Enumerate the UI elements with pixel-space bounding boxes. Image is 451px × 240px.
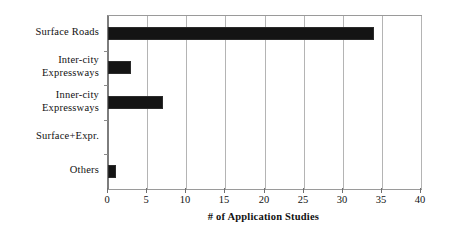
bar: [108, 61, 131, 74]
y-axis-label-line: Others: [0, 164, 99, 177]
x-axis-tick-label: 30: [322, 193, 362, 206]
x-axis-tick-label: 35: [361, 193, 401, 206]
bar: [108, 27, 374, 40]
y-axis-tick: [104, 154, 108, 155]
bar: [108, 165, 116, 178]
y-axis-label: Inter-cityExpressways: [0, 54, 99, 79]
x-axis-title: # of Application Studies: [107, 210, 420, 224]
y-axis-label-line: Inner-city: [0, 89, 99, 102]
plot-area: [107, 15, 422, 190]
y-axis-label-line: Surface Roads: [0, 26, 99, 39]
y-axis-label-line: Expressways: [0, 102, 99, 115]
x-axis-tick-label: 5: [126, 193, 166, 206]
x-axis-tick-label: 15: [204, 193, 244, 206]
x-axis-tick-labels: 0510152025303540: [107, 193, 420, 207]
x-axis-tick-label: 0: [87, 193, 127, 206]
bar-chart: Surface RoadsInter-cityExpresswaysInner-…: [0, 0, 451, 240]
y-axis-tick: [104, 85, 108, 86]
bars-layer: [108, 16, 421, 189]
y-axis-label-line: Surface+Expr.: [0, 130, 99, 143]
y-axis-tick: [104, 120, 108, 121]
y-axis-label: Surface Roads: [0, 26, 99, 39]
y-axis-category-labels: Surface RoadsInter-cityExpresswaysInner-…: [0, 15, 103, 188]
y-axis-label-line: Expressways: [0, 67, 99, 80]
x-axis-tick-label: 10: [165, 193, 205, 206]
y-axis-label: Surface+Expr.: [0, 130, 99, 143]
x-axis-tick-label: 25: [283, 193, 323, 206]
y-axis-label-line: Inter-city: [0, 54, 99, 67]
gridline-40: [421, 16, 422, 189]
y-axis-label: Others: [0, 164, 99, 177]
y-axis-label: Inner-cityExpressways: [0, 89, 99, 114]
x-axis-tick-label: 40: [400, 193, 440, 206]
x-axis-tick-label: 20: [244, 193, 284, 206]
bar: [108, 96, 163, 109]
y-axis-tick: [104, 51, 108, 52]
